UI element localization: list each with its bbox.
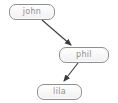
node-phil[interactable]: phil — [59, 47, 109, 63]
diagram-canvas: john phil lila — [0, 0, 118, 103]
node-phil-label: phil — [76, 51, 92, 59]
node-john[interactable]: john — [9, 4, 55, 20]
node-john-label: john — [23, 8, 41, 16]
node-lila-label: lila — [53, 88, 66, 96]
node-lila[interactable]: lila — [37, 84, 82, 100]
edge-phil-lila[interactable] — [64, 63, 78, 81]
edge-john-phil[interactable] — [42, 20, 71, 45]
